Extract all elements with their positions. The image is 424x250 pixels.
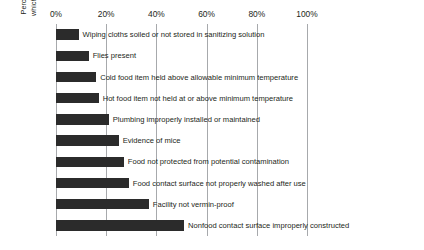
bar-rect[interactable] xyxy=(56,199,149,210)
bar-label: Facility not vermin-proof xyxy=(149,200,234,209)
x-tick-label-40: 40% xyxy=(148,9,165,20)
bar-label: Nonfood contact surface improperly const… xyxy=(184,221,349,230)
bar-row[interactable]: Cold food item held above allowable mini… xyxy=(56,72,424,83)
x-tick-label-80: 80% xyxy=(248,9,265,20)
plot-area: Wiping cloths soiled or not stored in sa… xyxy=(56,24,307,236)
bar-row[interactable]: Plumbing improperly installed or maintai… xyxy=(56,114,424,125)
bar-label: Flies present xyxy=(89,51,136,60)
x-axis-tick-labels: 0%20%40%60%80%100% xyxy=(0,9,424,22)
bar-label: Food contact surface not properly washed… xyxy=(129,179,306,188)
bar-rect[interactable] xyxy=(56,72,96,83)
bars-layer: Wiping cloths soiled or not stored in sa… xyxy=(56,24,307,236)
bar-row[interactable]: Wiping cloths soiled or not stored in sa… xyxy=(56,29,424,40)
bar-row[interactable]: Food contact surface not properly washed… xyxy=(56,178,424,189)
bar-label: Evidence of mice xyxy=(119,136,181,145)
bar-label: Food not protected from potential contam… xyxy=(124,157,289,166)
bar-rect[interactable] xyxy=(56,135,119,146)
bar-row[interactable]: Evidence of mice xyxy=(56,135,424,146)
bar-rect[interactable] xyxy=(56,51,89,62)
bar-label: Cold food item held above allowable mini… xyxy=(96,73,298,82)
bar-row[interactable]: Nonfood contact surface improperly const… xyxy=(56,220,424,231)
bar-rect[interactable] xyxy=(56,157,124,168)
bar-rect[interactable] xyxy=(56,114,109,125)
bar-row[interactable]: Food not protected from potential contam… xyxy=(56,157,424,168)
x-tick-label-60: 60% xyxy=(198,9,215,20)
bar-row[interactable]: Facility not vermin-proof xyxy=(56,199,424,210)
x-tick-label-0: 0% xyxy=(50,9,62,20)
bar-rect[interactable] xyxy=(56,93,99,104)
x-tick-label-20: 20% xyxy=(98,9,115,20)
bar-row[interactable]: Hot food item not held at or above minim… xyxy=(56,93,424,104)
bar-rect[interactable] xyxy=(56,220,184,231)
bar-label: Hot food item not held at or above minim… xyxy=(99,94,293,103)
bar-rect[interactable] xyxy=(56,29,79,40)
bar-rect[interactable] xyxy=(56,178,129,189)
bar-chart-figure: Percentage of businesses in which the vi… xyxy=(0,0,424,250)
bar-row[interactable]: Flies present xyxy=(56,51,424,62)
x-tick-label-100: 100% xyxy=(296,9,317,20)
bar-label: Plumbing improperly installed or maintai… xyxy=(109,115,260,124)
bar-label: Wiping cloths soiled or not stored in sa… xyxy=(79,30,265,39)
